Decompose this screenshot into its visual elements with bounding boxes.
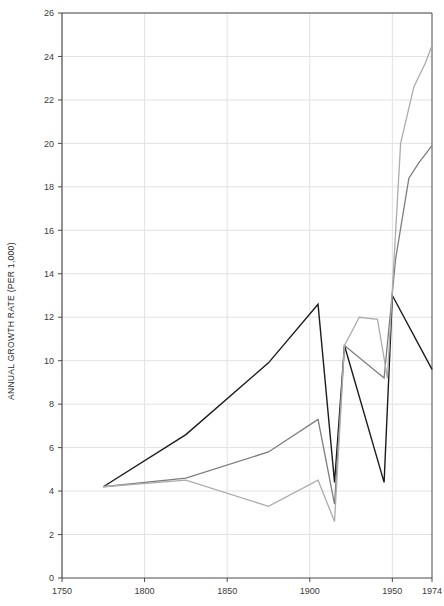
y-tick-label: 26 bbox=[44, 8, 54, 18]
x-tick-label: 1950 bbox=[382, 586, 402, 596]
x-tick-label: 1750 bbox=[52, 586, 72, 596]
x-tick-label: 1850 bbox=[217, 586, 237, 596]
y-tick-label: 24 bbox=[44, 52, 54, 62]
x-tick-label: 1900 bbox=[300, 586, 320, 596]
chart-container: 02468101214161820222426 1750180018501900… bbox=[0, 0, 444, 606]
y-tick-label: 14 bbox=[44, 269, 54, 279]
y-tick-label: 12 bbox=[44, 312, 54, 322]
y-tick-label: 10 bbox=[44, 356, 54, 366]
chart-background bbox=[0, 0, 444, 606]
x-tick-label: 1800 bbox=[135, 586, 155, 596]
y-tick-label: 8 bbox=[49, 399, 54, 409]
y-tick-label: 2 bbox=[49, 530, 54, 540]
y-tick-label: 16 bbox=[44, 226, 54, 236]
y-axis-title: ANNUAL GROWTH RATE (PER 1,000) bbox=[6, 242, 16, 400]
line-chart: 02468101214161820222426 1750180018501900… bbox=[0, 0, 444, 606]
y-tick-label: 0 bbox=[49, 573, 54, 583]
y-tick-label: 6 bbox=[49, 443, 54, 453]
y-tick-label: 18 bbox=[44, 182, 54, 192]
y-tick-label: 20 bbox=[44, 139, 54, 149]
y-tick-label: 4 bbox=[49, 486, 54, 496]
y-tick-label: 22 bbox=[44, 95, 54, 105]
x-tick-label: 1974 bbox=[422, 586, 442, 596]
